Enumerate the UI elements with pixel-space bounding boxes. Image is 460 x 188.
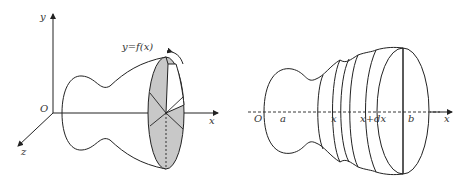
left-figure: y x z O y=f(x) <box>18 11 218 169</box>
z-axis-label: z <box>20 146 27 157</box>
a-label: a <box>280 113 286 124</box>
x-label: x <box>331 113 337 124</box>
y-axis-label: y <box>39 11 46 22</box>
x-plus-dx-label: x+dx <box>360 113 386 124</box>
x-axis-label-right: x <box>444 113 450 124</box>
rotating-wedge <box>166 64 184 113</box>
right-figure: O a x x+dx b x <box>248 47 452 174</box>
solid-of-revolution-diagram: y x z O y=f(x) O a x x+dx b x <box>0 0 460 188</box>
solid-outline-right <box>264 47 403 174</box>
origin-label-right: O <box>254 113 262 124</box>
z-axis <box>18 113 53 146</box>
x-axis-label: x <box>209 115 215 126</box>
origin-label: O <box>40 103 48 114</box>
curve-label: y=f(x) <box>121 41 153 52</box>
b-label: b <box>408 113 414 124</box>
